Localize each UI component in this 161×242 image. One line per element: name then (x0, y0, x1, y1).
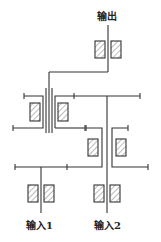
output-label: 输出 (97, 11, 117, 23)
input2-label: 输入2 (94, 220, 121, 232)
input1-label: 输入1 (26, 220, 53, 232)
upper-left-gear-set (13, 88, 140, 133)
middle-right-gear-set (15, 125, 148, 170)
gear-train-diagram (0, 0, 161, 242)
